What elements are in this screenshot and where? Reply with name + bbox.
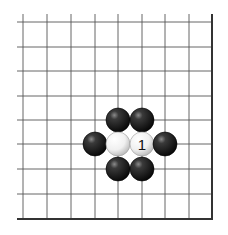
black-stone — [130, 157, 154, 181]
black-stone — [83, 132, 107, 156]
black-stone — [130, 108, 154, 132]
move-number-label: 1 — [138, 136, 146, 153]
stones-layer: 1 — [83, 108, 177, 181]
go-board: 1 — [0, 0, 228, 235]
black-stone — [106, 108, 130, 132]
white-stone: 1 — [130, 132, 154, 156]
white-stone — [106, 132, 130, 156]
black-stone — [106, 157, 130, 181]
black-stone — [153, 132, 177, 156]
